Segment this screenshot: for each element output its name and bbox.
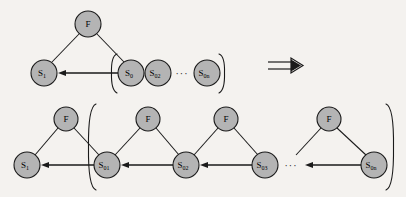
node-top-s0n[interactable]: S0n xyxy=(194,60,220,86)
edge-top-f-to-s1 xyxy=(52,34,79,62)
diagram-svg: F S1 S0 S02 xyxy=(0,0,406,197)
node-top-s0[interactable]: S0 xyxy=(118,60,144,86)
node-bot-s01[interactable]: S01 xyxy=(94,152,120,178)
node-bot-s02[interactable]: S02 xyxy=(173,152,199,178)
edge-bot-f3-to-s02 xyxy=(194,128,218,155)
node-bot-s0n[interactable]: S0n xyxy=(361,152,387,178)
arrowhead-bot-s03-to-s02 xyxy=(200,162,208,168)
arrowhead-top-s0-to-s1 xyxy=(58,70,66,76)
node-bot-f2[interactable]: F xyxy=(136,107,160,131)
node-top-f[interactable]: F xyxy=(75,11,101,37)
node-top-s02[interactable]: S02 xyxy=(145,60,171,86)
edge-top-f-to-s0 xyxy=(97,34,124,62)
arrowhead-bot-s02-to-s01 xyxy=(121,162,129,168)
bottom-row-group: F F F F xyxy=(14,104,394,190)
edge-bot-f4-to-s0n xyxy=(337,128,366,155)
edge-bot-f3-to-s03 xyxy=(234,128,258,155)
node-bot-s03[interactable]: S03 xyxy=(252,152,278,178)
edge-bot-f1-to-s01 xyxy=(74,128,99,155)
bracket-close-bottom xyxy=(386,104,394,190)
ellipsis-top: ··· xyxy=(176,68,189,79)
arrowhead-bot-s0n-to-ellipsis xyxy=(305,162,313,168)
edge-bot-f2-to-s02 xyxy=(156,128,179,155)
top-row-group: F S1 S0 S02 xyxy=(31,11,225,93)
ellipsis-bottom: ··· xyxy=(285,160,298,171)
node-bot-f1[interactable]: F xyxy=(54,107,78,131)
arrowhead-bot-s01-to-s1 xyxy=(41,162,49,168)
node-top-s1[interactable]: S1 xyxy=(31,60,57,86)
edge-bot-f4-dangling xyxy=(296,128,321,155)
node-bot-f4[interactable]: F xyxy=(317,107,341,131)
implication-arrow xyxy=(268,58,303,73)
diagram-canvas: F S1 S0 S02 xyxy=(0,0,406,197)
edge-bot-f1-to-s1 xyxy=(35,128,58,155)
node-bot-s1[interactable]: S1 xyxy=(14,152,40,178)
node-bot-f3[interactable]: F xyxy=(214,107,238,131)
edge-bot-f2-to-s01 xyxy=(115,128,140,155)
